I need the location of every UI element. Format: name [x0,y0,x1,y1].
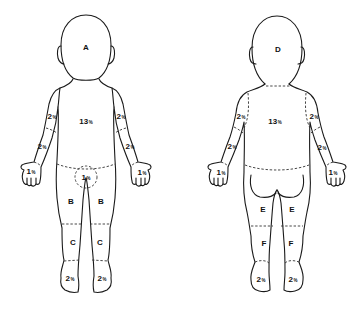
back-ankle-line-right [285,261,299,263]
back-wrist-line-right [326,162,333,166]
front-figure [21,15,151,292]
back-lower-leg-left-label: F [262,240,267,248]
front-fingers-left [27,178,36,185]
front-ankle-line-right [92,260,108,261]
back-trunk-label: 13% [268,118,281,126]
back-fingers-right [331,178,340,185]
back-waist-line [245,165,309,170]
back-lower-leg-right-label: F [289,240,294,248]
front-genitalia-label: 1% [82,174,91,182]
back-thigh-right-label: E [289,206,294,214]
front-forearm-right-label: 2% [126,143,135,151]
front-lower-leg-right-label: C [97,239,103,247]
back-upper-arm-left-label: 2% [237,113,246,121]
back-forearm-left-label: 2% [228,143,237,151]
front-hand-left-label: 1% [27,168,36,176]
back-upper-arm-right-label: 2% [310,113,319,121]
front-elbow-line-right [115,128,126,133]
front-thigh-left-label: B [68,198,74,206]
back-buttock-right [278,175,304,197]
front-elbow-line-left [46,128,57,133]
front-body-left [21,79,86,292]
front-trunk-label: 13% [79,118,92,126]
back-hand-right-label: 1% [329,169,338,177]
back-buttock-left [250,175,276,197]
front-foot-right-label: 2% [98,275,107,283]
back-wrist-line-left [221,162,228,166]
front-wrist-line-right [131,162,138,166]
back-shoulder-line-left [244,93,249,128]
front-ankle-line-left [64,260,80,261]
back-fingers-left [214,178,223,185]
back-head-label: D [275,46,281,54]
back-foot-left-label: 2% [257,276,266,284]
front-wrist-line-left [34,162,41,166]
front-fingers-right [136,178,145,185]
front-torso-side-left [58,88,60,107]
front-foot-left-label: 2% [66,275,75,283]
front-forearm-left-label: 2% [38,143,47,151]
front-hand-right-label: 1% [138,169,147,177]
back-thigh-left-label: E [260,206,265,214]
front-head-label: A [83,44,89,52]
body-chart-canvas [0,0,361,309]
back-ankle-line-left [255,261,269,263]
back-forearm-right-label: 2% [318,144,327,152]
back-foot-right-label: 2% [289,276,298,284]
front-thigh-right-label: B [98,198,104,206]
front-lower-leg-left-label: C [70,239,76,247]
back-hand-left-label: 1% [217,169,226,177]
front-upper-arm-left-label: 2% [48,113,57,121]
back-shoulder-line-right [305,93,310,128]
front-waist-line [57,164,115,169]
front-torso-side-right [112,88,114,107]
back-figure [208,16,346,292]
front-body-right [86,79,151,292]
front-upper-arm-right-label: 2% [117,113,126,121]
